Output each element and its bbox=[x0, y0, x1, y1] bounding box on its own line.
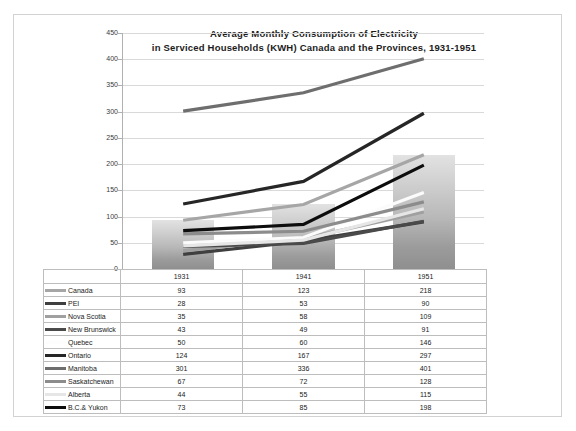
y-axis-tick-label: 450 bbox=[88, 29, 118, 36]
legend-cell: Nova Scotia bbox=[44, 310, 121, 323]
y-axis-tick-label: 200 bbox=[88, 160, 118, 167]
legend-swatch-icon bbox=[45, 302, 66, 305]
table-row: Saskatchewan6772128 bbox=[44, 375, 487, 388]
legend-swatch-icon bbox=[45, 406, 66, 409]
y-axis-labels: 050100150200250300350400450 bbox=[80, 33, 118, 270]
legend-label: Ontario bbox=[68, 350, 91, 361]
legend-swatch-icon bbox=[45, 380, 66, 383]
table-cell-1951: 91 bbox=[365, 323, 487, 336]
legend-cell: Quebec bbox=[44, 336, 121, 349]
table-row: Canada93123218 bbox=[44, 284, 487, 297]
legend-label: Quebec bbox=[68, 337, 93, 348]
legend-cell: New Brunswick bbox=[44, 323, 121, 336]
legend-cell: B.C.& Yukon bbox=[44, 401, 121, 414]
table-cell-1931: 93 bbox=[121, 284, 243, 297]
y-axis-tick-mark bbox=[118, 164, 122, 165]
legend-cell: PEI bbox=[44, 297, 121, 310]
table-row: Alberta4455115 bbox=[44, 388, 487, 401]
legend-label: PEI bbox=[68, 298, 79, 309]
legend-cell: Ontario bbox=[44, 349, 121, 362]
table-cell-1941: 60 bbox=[243, 336, 365, 349]
data-table: 1931 1941 1951 Canada93123218PEI285390No… bbox=[43, 269, 487, 414]
table-cell-1941: 336 bbox=[243, 362, 365, 375]
legend-cell: Saskatchewan bbox=[44, 375, 121, 388]
y-axis-tick-label: 400 bbox=[88, 55, 118, 62]
y-axis-tick-mark bbox=[118, 59, 122, 60]
table-cell-1951: 198 bbox=[365, 401, 487, 414]
table-cell-1931: 124 bbox=[121, 349, 243, 362]
legend-cell: Manitoba bbox=[44, 362, 121, 375]
table-header: 1931 1941 1951 bbox=[44, 270, 487, 284]
table-header-row: 1931 1941 1951 bbox=[44, 270, 487, 284]
table-cell-1941: 49 bbox=[243, 323, 365, 336]
table-row: Quebec5060146 bbox=[44, 336, 487, 349]
table-cell-1931: 301 bbox=[121, 362, 243, 375]
legend-label: New Brunswick bbox=[68, 324, 116, 335]
table-cell-1941: 167 bbox=[243, 349, 365, 362]
table-cell-1941: 58 bbox=[243, 310, 365, 323]
y-axis-tick-mark bbox=[118, 85, 122, 86]
header-cell-1941: 1941 bbox=[243, 270, 365, 284]
legend-label: Nova Scotia bbox=[68, 311, 106, 322]
legend-swatch-icon bbox=[45, 341, 66, 344]
table-cell-1931: 50 bbox=[121, 336, 243, 349]
legend-swatch-icon bbox=[45, 393, 66, 396]
y-axis-tick-label: 300 bbox=[88, 108, 118, 115]
y-axis-tick-mark bbox=[118, 33, 122, 34]
table-cell-1941: 72 bbox=[243, 375, 365, 388]
table-row: Ontario124167297 bbox=[44, 349, 487, 362]
legend-cell: Canada bbox=[44, 284, 121, 297]
header-cell-1951: 1951 bbox=[365, 270, 487, 284]
table-cell-1941: 123 bbox=[243, 284, 365, 297]
series-line-ontario bbox=[183, 113, 424, 204]
table-cell-1931: 67 bbox=[121, 375, 243, 388]
legend-swatch-icon bbox=[45, 354, 66, 357]
plot-area bbox=[123, 33, 484, 269]
series-line-manitoba bbox=[183, 59, 424, 111]
y-axis-tick-mark bbox=[118, 138, 122, 139]
legend-label: B.C.& Yukon bbox=[68, 402, 108, 413]
table-cell-1951: 115 bbox=[365, 388, 487, 401]
legend-swatch-icon bbox=[45, 315, 66, 318]
table-row: PEI285390 bbox=[44, 297, 487, 310]
legend-label: Manitoba bbox=[68, 363, 97, 374]
y-axis-tick-mark bbox=[118, 217, 122, 218]
table-row: Manitoba301336401 bbox=[44, 362, 487, 375]
legend-cell: Alberta bbox=[44, 388, 121, 401]
table-row: Nova Scotia3558109 bbox=[44, 310, 487, 323]
legend-swatch-icon bbox=[45, 367, 66, 370]
y-axis-tick-mark bbox=[118, 243, 122, 244]
y-axis-tick-mark bbox=[118, 112, 122, 113]
table-cell-1941: 85 bbox=[243, 401, 365, 414]
y-axis-tick-label: 50 bbox=[88, 239, 118, 246]
legend-label: Saskatchewan bbox=[68, 376, 114, 387]
header-cell-legend bbox=[44, 270, 121, 284]
y-axis-tick-label: 100 bbox=[88, 213, 118, 220]
series-lines bbox=[123, 33, 484, 269]
table-cell-1931: 28 bbox=[121, 297, 243, 310]
legend-label: Canada bbox=[68, 285, 93, 296]
y-axis-tick-label: 250 bbox=[88, 134, 118, 141]
table-row: New Brunswick434991 bbox=[44, 323, 487, 336]
legend-swatch-icon bbox=[45, 328, 66, 331]
table-cell-1951: 218 bbox=[365, 284, 487, 297]
chart-area: Average Monthly Consumption of Electrici… bbox=[14, 15, 561, 283]
legend-label: Alberta bbox=[68, 389, 90, 400]
table-cell-1931: 43 bbox=[121, 323, 243, 336]
table-cell-1951: 90 bbox=[365, 297, 487, 310]
chart-frame: Average Monthly Consumption of Electrici… bbox=[13, 14, 562, 417]
y-axis-tick-mark bbox=[118, 190, 122, 191]
y-axis-tick-label: 150 bbox=[88, 186, 118, 193]
header-cell-1931: 1931 bbox=[121, 270, 243, 284]
table-cell-1931: 44 bbox=[121, 388, 243, 401]
table-row: B.C.& Yukon7385198 bbox=[44, 401, 487, 414]
table-cell-1941: 53 bbox=[243, 297, 365, 310]
table-cell-1951: 109 bbox=[365, 310, 487, 323]
y-axis-tick-label: 350 bbox=[88, 81, 118, 88]
legend-swatch-icon bbox=[45, 289, 66, 292]
table-cell-1931: 73 bbox=[121, 401, 243, 414]
table-cell-1951: 128 bbox=[365, 375, 487, 388]
table-cell-1951: 401 bbox=[365, 362, 487, 375]
table-cell-1951: 297 bbox=[365, 349, 487, 362]
table-cell-1951: 146 bbox=[365, 336, 487, 349]
